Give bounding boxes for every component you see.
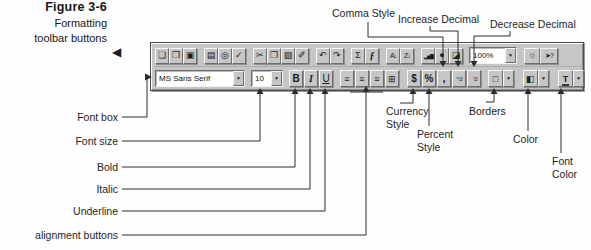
chevron-down-icon: ▼ <box>274 75 279 81</box>
chevron-down-icon: ▼ <box>236 75 241 81</box>
zoom-value: 100% <box>470 51 505 60</box>
undo-arrow-icon: ↶ <box>319 49 327 62</box>
callout-font-color-line2: Color <box>552 168 577 181</box>
copy-button[interactable]: ❐ <box>267 48 281 64</box>
color-dropdown-button[interactable]: ▼ <box>538 70 549 87</box>
standard-toolbar: ❏ ❒ ▣ ▤ ◎ ✓ ✂ ❐ ▨ ✐ ↶ ↷ Σ ƒ A↓ Z↓ ▂▅▇ ● … <box>154 45 583 67</box>
align-center-button[interactable]: ≡ <box>355 70 369 87</box>
increase-decimal-icon: ⁺.0 <box>456 72 461 86</box>
comma-style-button[interactable]: , <box>437 70 451 87</box>
font-color-dropdown-button[interactable]: ▼ <box>573 70 584 87</box>
callout-underline: Underline <box>73 205 118 218</box>
printer-icon: ▤ <box>207 49 216 62</box>
bold-button[interactable]: B <box>289 70 303 87</box>
callout-font-box: Font box <box>77 111 118 124</box>
sigma-icon: Σ <box>355 49 361 62</box>
paste-button[interactable]: ▨ <box>281 48 295 64</box>
callout-increase-decimal: Increase Decimal <box>398 13 479 26</box>
open-folder-icon: ❒ <box>172 49 180 62</box>
font-color-split-button: T ▼ <box>558 70 584 87</box>
align-left-icon: ≡ <box>344 72 349 86</box>
underline-button[interactable]: U <box>319 70 333 87</box>
paintbrush-icon: ✐ <box>298 49 306 62</box>
chart-icon: ▂▅▇ <box>424 50 433 63</box>
clipboard-icon: ▨ <box>284 49 293 62</box>
redo-arrow-icon: ↷ <box>333 49 341 62</box>
center-across-columns-icon: ⊞ <box>388 72 396 86</box>
function-wizard-button[interactable]: ƒ <box>365 48 379 64</box>
zoom-dropdown-button[interactable]: ▼ <box>505 48 516 63</box>
sort-ascending-icon: A↓ <box>390 49 396 62</box>
save-button[interactable]: ▣ <box>183 48 197 64</box>
chevron-down-icon: ▼ <box>541 75 546 81</box>
chart-wizard-button[interactable]: ▂▅▇ <box>421 48 435 64</box>
print-preview-button[interactable]: ◎ <box>218 48 232 64</box>
dollar-icon: $ <box>411 72 417 86</box>
percent-icon: % <box>425 72 434 86</box>
chevron-down-icon: ▼ <box>506 75 511 81</box>
italic-button[interactable]: I <box>304 70 318 87</box>
align-center-icon: ≡ <box>359 72 364 86</box>
undo-button[interactable]: ↶ <box>316 48 330 64</box>
sort-ascending-button[interactable]: A↓ <box>386 48 400 64</box>
percent-style-button[interactable]: % <box>422 70 436 87</box>
spellcheck-icon: ✓ <box>235 49 243 62</box>
merge-center-button[interactable]: ⊞ <box>385 70 399 87</box>
decrease-decimal-button[interactable]: ⁻.0 <box>467 70 481 87</box>
help-pointer-icon: ➤? <box>545 49 553 62</box>
function-fx-icon: ƒ <box>370 49 375 62</box>
callout-italic: Italic <box>96 183 118 196</box>
print-button[interactable]: ▤ <box>204 48 218 64</box>
align-right-button[interactable]: ≡ <box>370 70 384 87</box>
font-size-value: 10 <box>252 74 271 83</box>
bold-icon: B <box>292 72 299 86</box>
increase-decimal-button[interactable]: ⁺.0 <box>452 70 466 87</box>
format-painter-button[interactable]: ✐ <box>295 48 309 64</box>
magnifier-page-icon: ◎ <box>221 49 229 62</box>
zoom-combobox[interactable]: 100% ▼ <box>469 47 517 64</box>
underline-icon: U <box>322 72 329 86</box>
drawing-icon: ◪ <box>452 49 461 62</box>
open-button[interactable]: ❒ <box>169 48 183 64</box>
spelling-button[interactable]: ✓ <box>232 48 246 64</box>
color-split-button: ◧ ▼ <box>523 70 549 87</box>
callout-alignment-buttons: alignment buttons <box>35 229 118 242</box>
callout-color: Color <box>513 133 538 146</box>
map-button[interactable]: ● <box>435 48 449 64</box>
callout-bold: Bold <box>97 161 118 174</box>
callout-font-color-line1: Font <box>552 155 577 168</box>
borders-icon: □ <box>493 72 498 86</box>
cut-button[interactable]: ✂ <box>253 48 267 64</box>
redo-button[interactable]: ↷ <box>330 48 344 64</box>
align-left-button[interactable]: ≡ <box>340 70 354 87</box>
figure-caption-line1: Formatting <box>0 17 107 29</box>
sort-descending-icon: Z↓ <box>404 49 410 62</box>
align-right-icon: ≡ <box>374 72 379 86</box>
copy-pages-icon: ❐ <box>270 49 278 62</box>
font-name-dropdown-button[interactable]: ▼ <box>233 71 244 86</box>
tip-wizard-button[interactable]: ☼ <box>524 48 540 64</box>
paint-bucket-icon: ◧ <box>526 72 535 86</box>
callout-decrease-decimal: Decrease Decimal <box>490 18 576 31</box>
font-size-dropdown-button[interactable]: ▼ <box>271 71 282 86</box>
color-button[interactable]: ◧ <box>523 70 538 87</box>
italic-icon: I <box>309 72 313 86</box>
lightbulb-icon: ☼ <box>528 49 536 62</box>
drawing-button[interactable]: ◪ <box>449 48 463 64</box>
font-name-value: MS Sans Serif <box>156 74 233 83</box>
font-size-combobox[interactable]: 10 ▼ <box>251 70 283 87</box>
borders-dropdown-button[interactable]: ▼ <box>503 70 514 87</box>
currency-style-button[interactable]: $ <box>407 70 421 87</box>
callout-font-size: Font size <box>75 135 118 148</box>
help-button[interactable]: ➤? <box>540 48 558 64</box>
borders-button[interactable]: □ <box>488 70 503 87</box>
font-color-icon: T <box>562 75 570 86</box>
new-button[interactable]: ❏ <box>155 48 169 64</box>
borders-split-button: □ ▼ <box>488 70 514 87</box>
font-name-combobox[interactable]: MS Sans Serif ▼ <box>155 70 245 87</box>
comma-icon: , <box>442 71 445 85</box>
font-color-button[interactable]: T <box>558 70 573 87</box>
sort-descending-button[interactable]: Z↓ <box>400 48 414 64</box>
autosum-button[interactable]: Σ <box>351 48 365 64</box>
chevron-down-icon: ▼ <box>508 52 513 58</box>
